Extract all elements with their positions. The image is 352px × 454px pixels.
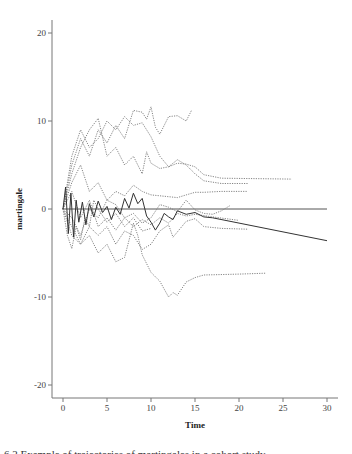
- martingale-chart: -20-1001020 051015202530 martingale Time: [0, 0, 352, 454]
- y-tick-label: 20: [37, 28, 47, 38]
- y-tick-label: -10: [34, 292, 46, 302]
- y-tick-label: 10: [37, 116, 47, 126]
- y-tick-label: 0: [42, 204, 47, 214]
- plot-lines: [63, 107, 327, 297]
- trajectory-dotted-high: [63, 107, 192, 209]
- trajectory-dotted-decline: [63, 117, 292, 209]
- y-axis-ticks: -20-1001020: [34, 28, 52, 390]
- x-tick-label: 5: [105, 403, 110, 413]
- x-tick-label: 15: [191, 403, 201, 413]
- x-axis-title: Time: [185, 420, 205, 430]
- figure-caption: 6.2 Example of trajectories of martingal…: [4, 446, 348, 454]
- x-tick-label: 25: [279, 403, 289, 413]
- x-tick-label: 10: [147, 403, 157, 413]
- y-axis-title: martingale: [14, 188, 24, 230]
- x-tick-label: 0: [61, 403, 66, 413]
- x-tick-label: 30: [323, 403, 333, 413]
- x-tick-label: 20: [235, 403, 245, 413]
- x-axis-ticks: 051015202530: [61, 398, 332, 413]
- y-tick-label: -20: [34, 380, 46, 390]
- trajectory-dotted-low-flat: [63, 165, 248, 209]
